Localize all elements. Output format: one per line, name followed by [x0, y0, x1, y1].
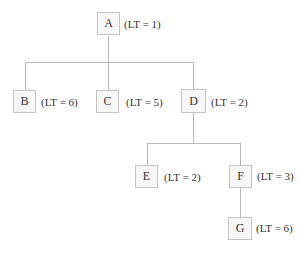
node-f: F	[229, 165, 252, 188]
node-a: A	[97, 12, 120, 35]
node-e-label: E	[143, 169, 150, 184]
node-b-lead-time: (LT = 6)	[41, 96, 78, 108]
connector-to-b	[25, 62, 26, 90]
connector-to-c	[108, 62, 109, 90]
node-c-label: C	[103, 94, 111, 109]
node-e: E	[135, 165, 158, 188]
node-f-label: F	[237, 169, 244, 184]
node-g-lead-time: (LT = 6)	[256, 222, 293, 234]
connector-f-to-g	[240, 188, 241, 217]
node-a-lead-time: (LT = 1)	[124, 18, 161, 30]
node-d-label: D	[189, 94, 198, 109]
node-c-lead-time: (LT = 5)	[126, 96, 163, 108]
connector-to-f	[240, 143, 241, 165]
node-f-lead-time: (LT = 3)	[257, 170, 294, 182]
connector-level1-bus	[25, 62, 194, 63]
node-b: B	[13, 90, 36, 113]
node-d-lead-time: (LT = 2)	[211, 96, 248, 108]
node-e-lead-time: (LT = 2)	[164, 171, 201, 183]
node-g-label: G	[236, 221, 245, 236]
node-g: G	[228, 217, 252, 240]
connector-level2-bus	[147, 143, 241, 144]
connector-to-d	[193, 62, 194, 89]
connector-a-down	[108, 36, 109, 62]
connector-to-e	[147, 143, 148, 165]
node-b-label: B	[20, 94, 28, 109]
node-a-label: A	[104, 16, 113, 31]
connector-d-down	[193, 113, 194, 143]
node-d: D	[181, 89, 206, 113]
node-c: C	[96, 90, 119, 113]
